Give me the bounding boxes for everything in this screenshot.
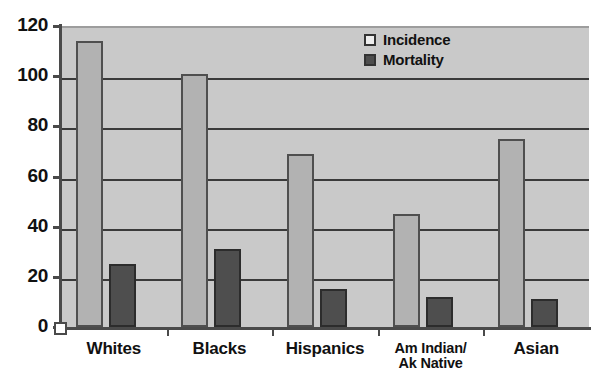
x-axis-label-1: Blacks (167, 340, 273, 357)
y-tick-label-100: 100 (0, 64, 48, 86)
x-axis-label-line1: Hispanics (272, 340, 378, 357)
legend-item-incidence: Incidence (364, 30, 514, 49)
bar-mortality-0 (109, 264, 136, 327)
x-tick-4 (483, 327, 485, 336)
bar-incidence-2 (287, 154, 314, 327)
bar-chart: 120100806040200 WhitesBlacksHispanicsAm … (0, 0, 596, 388)
x-axis-label-line1: Blacks (167, 340, 273, 357)
bar-mortality-3 (426, 297, 453, 327)
mortality-swatch-icon (364, 54, 376, 66)
y-tick-label-60: 60 (0, 165, 48, 187)
x-tick-2 (272, 327, 274, 336)
x-tick-3 (378, 327, 380, 336)
x-axis-label-line1: Whites (61, 340, 167, 357)
bar-mortality-1 (214, 249, 241, 327)
y-tick-label-40: 40 (0, 215, 48, 237)
bar-mortality-2 (320, 289, 347, 327)
legend-label-mortality: Mortality (383, 51, 444, 68)
legend-item-mortality: Mortality (364, 50, 514, 69)
x-axis-line (59, 327, 591, 330)
y-tick-label-80: 80 (0, 114, 48, 136)
bar-incidence-4 (498, 139, 525, 327)
y-tick-label-0: 0 (0, 315, 48, 337)
x-axis-label-2: Hispanics (272, 340, 378, 357)
x-axis-label-0: Whites (61, 340, 167, 357)
incidence-swatch-icon (364, 34, 376, 46)
bar-incidence-3 (393, 214, 420, 327)
x-axis-label-line1: Asian (483, 340, 589, 357)
x-tick-1 (167, 327, 169, 336)
x-axis-label-3: Am Indian/Ak Native (378, 341, 484, 372)
x-axis-label-4: Asian (483, 340, 589, 357)
bar-incidence-1 (181, 74, 208, 327)
x-axis-label-line2: Ak Native (378, 356, 484, 371)
legend-label-incidence: Incidence (383, 31, 450, 48)
bar-mortality-4 (531, 299, 558, 327)
origin-marker (54, 322, 67, 335)
bars-layer (61, 26, 589, 327)
y-tick-label-120: 120 (0, 14, 48, 36)
x-axis-label-line1: Am Indian/ (378, 341, 484, 356)
legend: Incidence Mortality (364, 30, 514, 70)
y-tick-label-20: 20 (0, 265, 48, 287)
bar-incidence-0 (76, 41, 103, 327)
